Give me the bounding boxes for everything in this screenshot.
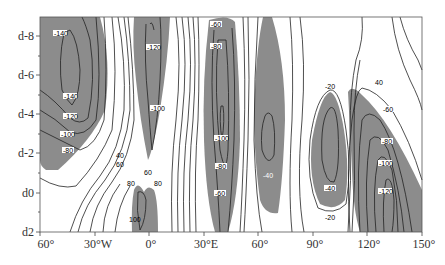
- contour-label: -100: [60, 131, 75, 138]
- x-tick-labels: 60° 30°W 0° 30°E 60° 90° 120° 150°: [38, 237, 436, 251]
- contour-label: -40: [263, 172, 273, 179]
- svg-text:60: 60: [116, 161, 124, 168]
- shade-greenwich-south: [132, 185, 158, 232]
- y-tick-label: d-4: [18, 107, 34, 121]
- contour-label: -120: [378, 188, 393, 195]
- svg-text:-80: -80: [63, 147, 73, 154]
- shade-east-60: [254, 17, 285, 213]
- shade-greenwich-north: [133, 17, 170, 160]
- svg-text:-100: -100: [61, 131, 75, 138]
- contour-label: -100: [214, 135, 229, 142]
- contour-label: -120: [146, 44, 161, 51]
- y-tick-label: d-2: [18, 146, 34, 160]
- svg-text:40: 40: [116, 152, 124, 159]
- svg-text:-60: -60: [383, 106, 393, 113]
- svg-text:40: 40: [375, 79, 383, 86]
- y-tick-label: d0: [22, 186, 34, 200]
- svg-text:-40: -40: [263, 172, 273, 179]
- x-tick-label: 60°: [38, 237, 55, 251]
- y-axis: [36, 36, 40, 232]
- contour-label: -80: [62, 147, 74, 154]
- svg-text:-20: -20: [325, 83, 335, 90]
- svg-text:-140: -140: [64, 93, 78, 100]
- contour-chart: -140 -140 -120 -100 -80 -120 -100 40 60 …: [0, 0, 445, 265]
- contour-label: -140: [63, 93, 78, 100]
- contour-label: -60: [382, 106, 394, 113]
- svg-text:80: 80: [127, 180, 135, 187]
- contour-label: -80: [210, 43, 222, 50]
- svg-text:-100: -100: [215, 135, 229, 142]
- x-tick-label: 120°: [358, 237, 381, 251]
- svg-text:-120: -120: [64, 113, 78, 120]
- svg-text:-80: -80: [211, 43, 221, 50]
- svg-text:-60: -60: [211, 21, 221, 28]
- y-tick-label: d-8: [18, 29, 34, 43]
- contour-label: -40: [324, 185, 336, 192]
- x-tick-label: 60°: [252, 237, 269, 251]
- y-tick-label: d-6: [18, 68, 34, 82]
- svg-text:100: 100: [129, 216, 141, 223]
- svg-text:-60: -60: [215, 190, 225, 197]
- contour-label: -60: [210, 21, 222, 28]
- x-tick-label: 90°: [307, 237, 324, 251]
- svg-text:-120: -120: [379, 188, 393, 195]
- svg-text:-100: -100: [151, 105, 165, 112]
- svg-text:80: 80: [154, 180, 162, 187]
- y-tick-label: d2: [22, 225, 34, 239]
- svg-text:-80: -80: [216, 163, 226, 170]
- contour-label: -140: [53, 30, 68, 37]
- x-tick-label: 30°E: [194, 237, 218, 251]
- contour-label: -100: [150, 105, 165, 112]
- svg-text:-40: -40: [325, 185, 335, 192]
- contour-label: -120: [63, 113, 78, 120]
- x-tick-label: 30°W: [84, 237, 113, 251]
- contour-label: -80: [381, 138, 393, 145]
- svg-text:-140: -140: [54, 30, 68, 37]
- svg-text:-120: -120: [147, 44, 161, 51]
- svg-text:60: 60: [144, 169, 152, 176]
- contour-label: -60: [214, 190, 226, 197]
- contour-label: -100: [378, 160, 393, 167]
- x-tick-label: 0°: [146, 237, 157, 251]
- y-tick-labels: d-8 d-6 d-4 d-2 d0 d2: [18, 29, 34, 239]
- x-tick-label: 150°: [413, 237, 436, 251]
- svg-text:-20: -20: [325, 214, 335, 221]
- svg-text:-100: -100: [379, 160, 393, 167]
- x-axis: [40, 232, 422, 236]
- svg-text:-80: -80: [382, 138, 392, 145]
- contour-label: -80: [215, 163, 227, 170]
